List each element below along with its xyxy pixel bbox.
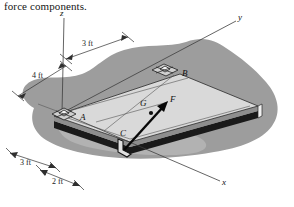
- axis-y-label: y: [237, 12, 242, 22]
- dimension-2ft-bottom-group: 2 ft: [36, 165, 84, 190]
- dim-3ft-top-arrow-left: [66, 54, 73, 60]
- dim-3ft-bottom-line: [10, 153, 56, 168]
- force-vector-label: F: [169, 94, 176, 104]
- dim-3ft-top-label: 3 ft: [82, 39, 94, 48]
- point-c-label: C: [120, 128, 127, 138]
- dim-4ft-left-label: 4 ft: [32, 71, 44, 80]
- point-g-label: G: [140, 98, 147, 108]
- dim-3ft-bottom-label: 3 ft: [20, 158, 32, 167]
- dim-2ft-bottom-label: 2 ft: [52, 177, 64, 186]
- point-g-dot: [149, 111, 153, 115]
- dimension-3ft-bottom-group: 3 ft: [6, 148, 60, 172]
- point-a-label: A: [79, 112, 86, 122]
- figure-root: force components.: [0, 0, 294, 207]
- axis-z-label: z: [59, 8, 64, 18]
- point-b-label: B: [182, 68, 188, 78]
- plate-force-diagram-svg: z y x 3 ft 4 ft: [0, 0, 294, 207]
- axis-x-label: x: [221, 177, 226, 187]
- plate-right-end-cap: [258, 104, 262, 118]
